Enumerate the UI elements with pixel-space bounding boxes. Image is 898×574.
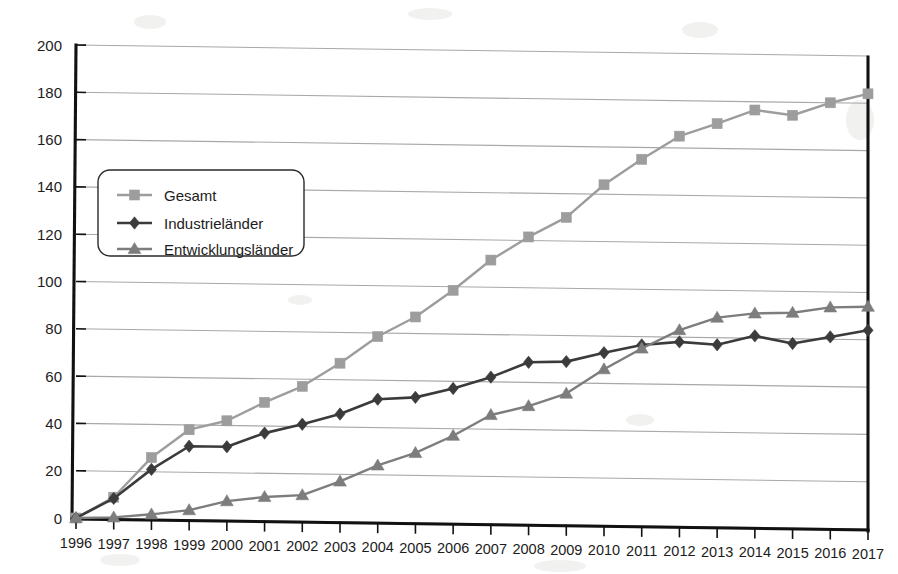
legend-item-label: Entwicklungsländer bbox=[164, 241, 293, 258]
x-axis-tick-label: 2010 bbox=[588, 542, 620, 558]
data-point-marker-square bbox=[750, 105, 760, 115]
data-point-marker-square bbox=[297, 381, 307, 391]
chart-legend: GesamtIndustrieländerEntwicklungsländer bbox=[98, 170, 304, 258]
data-point-marker-square bbox=[373, 332, 383, 342]
y-axis-tick-label: 40 bbox=[45, 415, 62, 432]
x-axis-tick-label: 2007 bbox=[475, 541, 507, 557]
data-point-marker-square bbox=[410, 312, 420, 322]
data-point-marker-square bbox=[599, 180, 609, 190]
y-axis-tick-label: 80 bbox=[45, 320, 62, 337]
data-point-marker-square bbox=[524, 232, 534, 242]
legend-item-label: Industrieländer bbox=[164, 215, 263, 232]
x-axis-tick-label: 1999 bbox=[173, 537, 205, 553]
data-point-marker-square bbox=[184, 425, 194, 435]
x-axis-tick-label: 2012 bbox=[663, 543, 695, 559]
x-axis-tick-label: 2004 bbox=[362, 539, 394, 555]
data-point-marker-square bbox=[486, 255, 496, 265]
x-axis-tick-label: 2001 bbox=[248, 538, 280, 554]
x-axis-tick-label: 2013 bbox=[701, 544, 733, 560]
data-point-marker-square bbox=[712, 119, 722, 129]
data-point-marker-square bbox=[674, 131, 684, 141]
data-point-marker-square bbox=[788, 110, 798, 120]
data-point-marker-square bbox=[863, 89, 873, 99]
x-axis-tick-label: 2002 bbox=[286, 538, 318, 554]
y-axis-tick-label: 0 bbox=[54, 510, 62, 527]
legend-item-label: Gesamt bbox=[164, 187, 217, 204]
x-axis-tick-label: 2014 bbox=[739, 544, 771, 560]
x-axis-tick-label: 2000 bbox=[211, 537, 243, 553]
y-axis-tick-label: 20 bbox=[45, 462, 62, 479]
x-axis-tick-label: 2015 bbox=[776, 545, 808, 561]
data-point-marker-square bbox=[146, 453, 156, 463]
data-point-marker-square bbox=[130, 190, 140, 200]
x-axis-tick-label: 1998 bbox=[135, 536, 167, 552]
data-point-marker-square bbox=[637, 154, 647, 164]
y-axis-tick-label: 60 bbox=[45, 368, 62, 385]
x-axis-tick-label: 1996 bbox=[60, 535, 92, 551]
y-axis-tick-label: 120 bbox=[37, 226, 62, 243]
x-axis-tick-label: 2008 bbox=[512, 541, 544, 557]
y-axis-tick-label: 180 bbox=[37, 84, 62, 101]
y-axis-tick-label: 160 bbox=[37, 131, 62, 148]
data-point-marker-square bbox=[222, 416, 232, 426]
y-axis-tick-label: 140 bbox=[37, 178, 62, 195]
chart-canvas: 020406080100120140160180200 199619971998… bbox=[0, 0, 898, 574]
x-axis-tick-label: 2011 bbox=[626, 543, 657, 559]
x-axis-tick-label: 2003 bbox=[324, 539, 356, 555]
data-point-marker-square bbox=[448, 285, 458, 295]
x-axis-tick-label: 2017 bbox=[852, 546, 884, 562]
line-chart: 020406080100120140160180200 199619971998… bbox=[0, 0, 898, 574]
x-axis-tick-label: 1997 bbox=[98, 536, 130, 552]
data-point-marker-square bbox=[825, 98, 835, 108]
data-point-marker-square bbox=[561, 212, 571, 222]
data-point-marker-square bbox=[335, 358, 345, 368]
y-axis-tick-label: 100 bbox=[37, 273, 62, 290]
x-axis-tick-label: 2016 bbox=[814, 545, 846, 561]
y-axis-tick-label: 200 bbox=[37, 37, 62, 54]
x-axis-tick-label: 2006 bbox=[437, 540, 469, 556]
x-axis-tick-label: 2009 bbox=[550, 542, 582, 558]
data-point-marker-square bbox=[260, 397, 270, 407]
x-axis-tick-label: 2005 bbox=[399, 540, 431, 556]
